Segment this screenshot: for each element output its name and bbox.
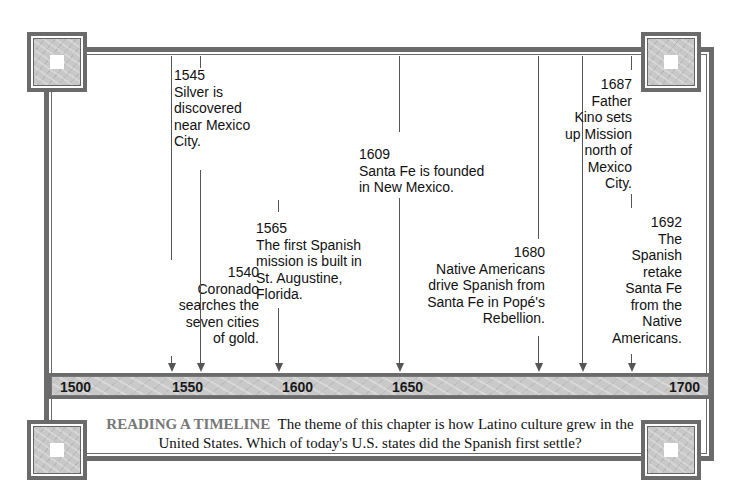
corner-ornament-bottom-left xyxy=(27,420,87,480)
connector-line-1680 xyxy=(538,56,539,239)
event-text-line: Americans. xyxy=(612,330,682,347)
event-text-line: The xyxy=(612,231,682,248)
event-1680: 1680 Native Americans drive Spanish from… xyxy=(427,244,545,327)
event-text-line: Father xyxy=(565,93,632,110)
event-year: 1687 xyxy=(565,76,632,93)
event-text-line: Florida. xyxy=(256,286,362,303)
event-text-line: searches the xyxy=(179,297,259,314)
arrow-down-icon xyxy=(168,363,176,372)
arrow-1680-stem xyxy=(538,336,539,364)
axis-tick-1700: 1700 xyxy=(669,379,700,395)
event-text-line: Native xyxy=(612,313,682,330)
event-year: 1545 xyxy=(174,67,250,84)
event-text-line: Santa Fe is founded xyxy=(359,163,484,180)
event-text-line: of gold. xyxy=(179,330,259,347)
axis-tick-1550: 1550 xyxy=(172,379,203,395)
arrow-down-icon xyxy=(396,363,404,372)
event-text-line: discovered xyxy=(174,100,250,117)
event-1609: 1609 Santa Fe is founded in New Mexico. xyxy=(359,146,484,196)
event-text-line: Spanish xyxy=(612,247,682,264)
arrow-down-icon xyxy=(535,363,543,372)
corner-ornament-top-left xyxy=(27,32,87,92)
axis-tick-1650: 1650 xyxy=(392,379,423,395)
caption-label: READING A TIMELINE xyxy=(106,416,270,432)
event-text-line: drive Spanish from xyxy=(427,277,545,294)
timeline-axis-bar: 1500 1550 1600 1650 1700 xyxy=(48,373,712,399)
connector-line-1687 xyxy=(631,56,632,70)
arrow-down-icon xyxy=(579,363,587,372)
event-1692: 1692 The Spanish retake Santa Fe from th… xyxy=(612,214,682,346)
event-1545: 1545 Silver is discovered near Mexico Ci… xyxy=(174,67,250,150)
arrow-down-icon xyxy=(628,363,636,372)
event-text-line: seven cities xyxy=(179,314,259,331)
arrow-down-icon xyxy=(275,363,283,372)
event-year: 1609 xyxy=(359,146,484,163)
event-year: 1565 xyxy=(256,220,362,237)
arrow-1565-stem xyxy=(278,308,279,364)
connector-line-1692 xyxy=(631,194,632,208)
event-year: 1692 xyxy=(612,214,682,231)
arrow-1609-stem xyxy=(399,198,400,364)
event-text-line: City. xyxy=(565,175,632,192)
axis-tick-1500: 1500 xyxy=(60,379,91,395)
event-text-line: Silver is xyxy=(174,84,250,101)
event-text-line: St. Augustine, xyxy=(256,270,362,287)
arrow-1545-stem xyxy=(200,170,201,364)
event-text-line: Santa Fe in Popé's xyxy=(427,294,545,311)
event-1565: 1565 The first Spanish mission is built … xyxy=(256,220,362,303)
event-1687: 1687 Father Kino sets up Mission north o… xyxy=(565,76,632,192)
corner-ornament-top-right xyxy=(641,32,701,92)
event-text-line: Santa Fe xyxy=(612,280,682,297)
event-text-line: from the xyxy=(612,297,682,314)
event-text-line: in New Mexico. xyxy=(359,179,484,196)
event-year: 1680 xyxy=(427,244,545,261)
caption: READING A TIMELINE The theme of this cha… xyxy=(100,415,640,453)
connector-line-1565 xyxy=(278,200,279,212)
connector-line-1609 xyxy=(399,56,400,132)
event-text-line: City. xyxy=(174,133,250,150)
arrow-down-icon xyxy=(197,363,205,372)
event-text-line: Kino sets xyxy=(565,109,632,126)
event-text-line: up Mission xyxy=(565,126,632,143)
event-text-line: north of xyxy=(565,142,632,159)
event-text-line: Native Americans xyxy=(427,261,545,278)
event-text-line: mission is built in xyxy=(256,253,362,270)
event-text-line: near Mexico xyxy=(174,117,250,134)
corner-ornament-bottom-right xyxy=(641,420,701,480)
event-1540: 1540 Coronado searches the seven cities … xyxy=(179,264,259,347)
axis-tick-1600: 1600 xyxy=(282,379,313,395)
event-text-line: Coronado xyxy=(179,281,259,298)
event-text-line: Rebellion. xyxy=(427,310,545,327)
connector-line-1540 xyxy=(171,56,172,260)
event-text-line: retake xyxy=(612,264,682,281)
event-text-line: Mexico xyxy=(565,159,632,176)
event-text-line: The first Spanish xyxy=(256,237,362,254)
event-year: 1540 xyxy=(179,264,259,281)
